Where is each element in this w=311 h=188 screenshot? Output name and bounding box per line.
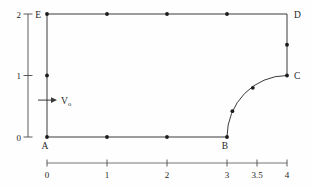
boundary-node-dot [165,135,169,139]
boundary-node-dot [165,12,169,16]
inlet-velocity-label: V [61,96,68,106]
x-axis-tick-label: 3 [225,170,230,180]
y-axis-tick-label: 0 [17,133,22,143]
corner-label-E: E [35,10,41,20]
y-axis-tick-label: 1 [17,71,22,81]
corner-label-B: B [222,141,228,151]
corner-label-A: A [42,141,49,151]
x-axis-tick-label: 0 [45,170,50,180]
corner-label-D: D [294,10,301,20]
domain-outline [47,14,287,137]
x-axis-tick-label: 4 [285,170,290,180]
boundary-node-dot [225,12,229,16]
boundary-node-dot [45,12,49,16]
boundary-node-dot [225,135,229,139]
boundary-node-dot [285,43,289,47]
x-axis-tick-label: 1 [105,170,110,180]
y-axis-tick-label: 2 [17,10,22,20]
x-axis-tick-label: 2 [165,170,170,180]
boundary-node-dot [285,74,289,78]
flow-domain-figure: 01201233.54ABCDEVo [0,0,311,188]
inlet-velocity-subscript: o [68,100,71,107]
boundary-node-dot [251,86,255,90]
flow-domain-diagram: 01201233.54ABCDEVo [0,0,311,188]
boundary-node-dot [105,135,109,139]
boundary-node-dot [105,12,109,16]
boundary-node-dot [45,135,49,139]
x-axis-tick-label: 3.5 [251,170,263,180]
boundary-node-dot [231,109,235,113]
inlet-arrow-head [51,97,57,103]
boundary-node-dot [45,74,49,78]
corner-label-C: C [294,71,300,81]
